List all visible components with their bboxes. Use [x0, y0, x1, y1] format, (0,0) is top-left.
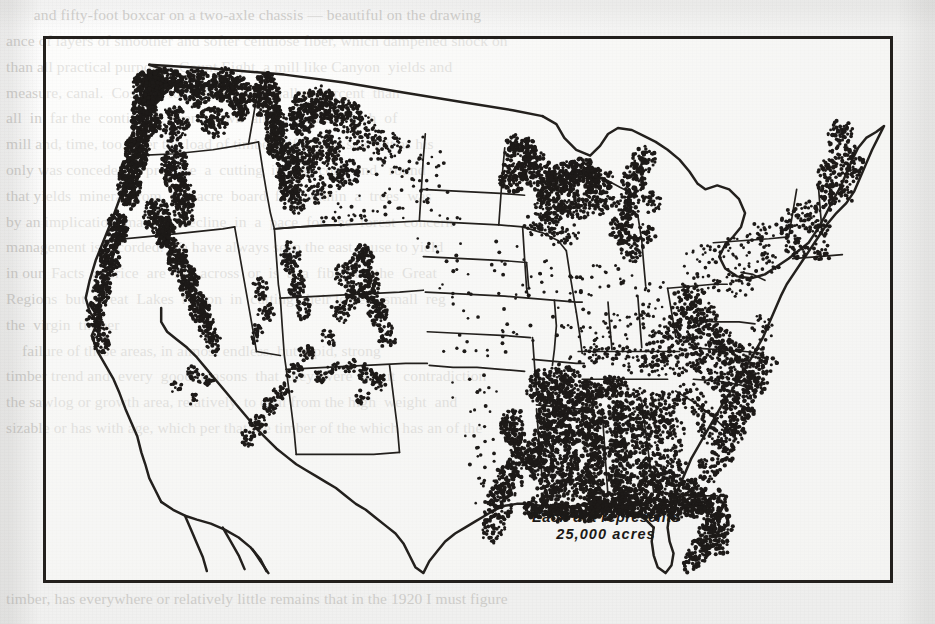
state-border-line: [419, 221, 522, 227]
state-border-line: [286, 363, 427, 369]
state-border-line: [257, 352, 281, 356]
state-border-line: [429, 365, 524, 371]
state-border-line: [423, 257, 526, 263]
legend-line-1: Each dot represents: [501, 509, 711, 526]
map-svg: [46, 39, 890, 580]
legend-line-2: 25,000 acres: [501, 526, 711, 543]
state-border-line: [390, 365, 400, 452]
state-border-line: [296, 452, 399, 454]
state-border-line: [419, 134, 425, 221]
state-border-line: [608, 302, 612, 349]
map-figure-frame: Each dot represents 25,000 acres: [43, 36, 893, 583]
national-outline-line: [542, 116, 798, 278]
map-legend: Each dot represents 25,000 acres: [501, 509, 711, 543]
state-border-line: [274, 221, 419, 229]
scanned-page: and fifty-foot boxcar on a two-axle chas…: [0, 0, 935, 624]
national-outline-line: [185, 516, 207, 571]
state-border-line: [638, 296, 642, 347]
dot-density-dots: [85, 66, 865, 574]
national-outline-line: [161, 502, 266, 571]
ghost-text-bottom: timber, has everywhere or relatively lit…: [6, 586, 931, 612]
state-border-line: [280, 298, 286, 369]
state-border-line: [135, 142, 258, 156]
state-border-line: [552, 300, 556, 365]
state-border-line: [274, 229, 280, 298]
national-outline-line: [253, 549, 269, 573]
ghost-text-top: and fifty-foot boxcar on a two-axle chas…: [6, 2, 931, 28]
us-dot-density-map: [46, 39, 890, 580]
state-border-line: [425, 292, 528, 298]
state-border-line: [576, 312, 582, 354]
